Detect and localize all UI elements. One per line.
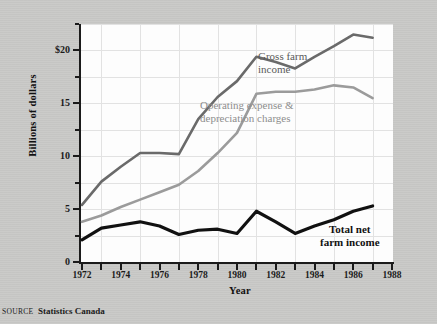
series-label-operating-expense: Operating expense & depreciation charges (200, 99, 293, 124)
y-axis-title: Billions of dollars (27, 56, 38, 176)
source-caption: SOURCE Statistics Canada (2, 306, 105, 316)
source-label: SOURCE (2, 307, 33, 316)
series-label-net-line1: Total net (320, 223, 380, 236)
series-label-gross-line2: income (258, 63, 307, 76)
series-label-opex-line2: depreciation charges (200, 112, 293, 125)
chart-figure: $20151050 197219741976197819801982198419… (0, 0, 437, 300)
series-label-gross-line1: Gross farm (258, 50, 307, 63)
series-label-total-net-farm-income: Total net farm income (320, 223, 380, 248)
series-lines (0, 0, 437, 300)
figure-background: $20151050 197219741976197819801982198419… (0, 0, 437, 324)
x-axis-title: Year (160, 285, 320, 296)
series-label-gross-farm-income: Gross farm income (258, 50, 307, 75)
series-label-opex-line1: Operating expense & (200, 99, 293, 112)
series-label-net-line2: farm income (320, 236, 380, 249)
source-value: Statistics Canada (38, 306, 105, 316)
